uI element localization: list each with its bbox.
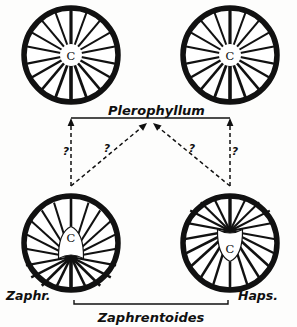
- uncertainty-mark-right-vertical: ?: [232, 145, 239, 158]
- taxon-label-zaphrentoides: Zaphrentoides: [97, 310, 205, 325]
- taxon-label-plerophyllum: Plerophyllum: [108, 103, 205, 118]
- arrowhead-left-diagonal: [139, 123, 147, 131]
- arrowhead-right-vertical: [227, 118, 234, 126]
- cardinal-label-top-left: C: [67, 49, 76, 63]
- figure-root: C: [0, 0, 297, 327]
- taxon-label-zaphrentis: Zaphr.: [5, 288, 50, 303]
- coral-septal-diagram: C: [0, 0, 297, 327]
- corallite-bottom-left: C: [24, 196, 118, 290]
- corallite-bottom-right: C: [183, 196, 277, 290]
- uncertainty-mark-right-diagonal: ?: [189, 142, 196, 155]
- relationship-connectors: [68, 118, 234, 186]
- cardinal-label-bottom-left: C: [67, 231, 76, 245]
- cardinal-label-bottom-right: C: [226, 242, 235, 256]
- uncertainty-mark-left-diagonal: ?: [104, 142, 111, 155]
- corallite-top-left: C: [24, 8, 118, 102]
- uncertainty-mark-left-vertical: ?: [63, 145, 70, 158]
- connector-left-diagonal: [71, 127, 142, 186]
- corallite-top-right: C: [183, 8, 277, 102]
- connector-right-diagonal: [158, 127, 230, 186]
- cardinal-label-top-right: C: [226, 49, 235, 63]
- arrowhead-right-diagonal: [153, 123, 162, 131]
- zaphrentoides-bracket: [74, 300, 228, 304]
- arrowhead-left-vertical: [68, 118, 75, 126]
- taxon-label-hapsiphyllum: Haps.: [238, 288, 278, 303]
